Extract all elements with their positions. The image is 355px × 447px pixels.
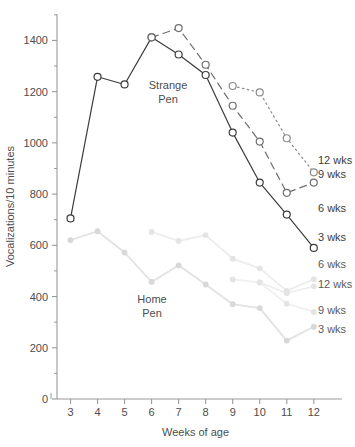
data-point-marker: [310, 169, 317, 176]
data-point-marker: [175, 51, 182, 58]
data-point-marker: [149, 229, 155, 235]
vocalizations-line-chart: 02004006008001000120014003456789101112 S…: [0, 0, 355, 447]
data-point-marker: [284, 338, 290, 344]
data-point-marker: [68, 237, 74, 243]
data-point-marker: [230, 301, 236, 307]
y-tick-label: 0: [42, 393, 48, 405]
legend-label: 3 wks: [318, 323, 347, 335]
x-tick-label: 9: [230, 406, 236, 418]
group-label-line2: Pen: [142, 307, 162, 319]
group-label-strange: StrangePen: [149, 79, 188, 105]
data-point-marker: [310, 179, 317, 186]
x-tick-label: 10: [254, 406, 266, 418]
y-tick-label: 1200: [24, 86, 48, 98]
data-point-marker: [283, 189, 290, 196]
data-point-marker: [176, 238, 182, 244]
legend-label: 6 wks: [318, 258, 347, 270]
data-point-marker: [283, 211, 290, 218]
data-point-marker: [256, 89, 263, 96]
group-label-line1: Home: [137, 293, 166, 305]
series-line: [233, 86, 314, 172]
series-line: [71, 231, 314, 340]
group-label-home: HomePen: [137, 293, 166, 319]
y-tick-label: 800: [30, 188, 48, 200]
inline-legend-layer: 12 wks9 wks6 wks3 wks6 wks12 wks9 wks3 w…: [318, 154, 353, 335]
series-line: [71, 37, 314, 248]
series-strange-pen-9-wks: [148, 25, 317, 197]
y-tick-label: 600: [30, 239, 48, 251]
x-tick-label: 7: [176, 406, 182, 418]
data-point-marker: [230, 276, 236, 282]
x-tick-label: 12: [308, 406, 320, 418]
data-point-marker: [229, 102, 236, 109]
x-tick-label: 6: [149, 406, 155, 418]
data-point-marker: [284, 301, 290, 307]
legend-label: 6 wks: [318, 202, 347, 214]
data-point-marker: [283, 135, 290, 142]
data-point-marker: [203, 282, 209, 288]
y-tick-label: 400: [30, 291, 48, 303]
data-point-marker: [284, 290, 290, 296]
data-point-marker: [149, 279, 155, 285]
y-tick-label: 1000: [24, 137, 48, 149]
data-point-marker: [230, 256, 236, 262]
series-layer: [67, 25, 317, 344]
data-point-marker: [257, 305, 263, 311]
data-point-marker: [229, 129, 236, 136]
x-tick-label: 3: [67, 406, 73, 418]
series-home-pen-9-wks: [230, 276, 317, 314]
data-point-marker: [203, 232, 209, 238]
data-point-marker: [311, 283, 317, 289]
series-strange-pen-3-wks: [67, 34, 317, 252]
chart-container: 02004006008001000120014003456789101112 S…: [0, 0, 355, 447]
data-point-marker: [202, 61, 209, 68]
legend-label: 12 wks: [318, 278, 353, 290]
data-point-marker: [311, 276, 317, 282]
data-point-marker: [176, 262, 182, 268]
x-tick-label: 11: [281, 406, 292, 418]
x-tick-label: 4: [94, 406, 100, 418]
legend-label: 9 wks: [318, 304, 347, 316]
data-point-marker: [256, 138, 263, 145]
data-point-marker: [95, 228, 101, 234]
y-tick-label: 200: [30, 342, 48, 354]
data-point-marker: [121, 81, 128, 88]
data-point-marker: [122, 250, 128, 256]
series-home-pen-6-wks: [149, 229, 317, 294]
data-point-marker: [202, 71, 209, 78]
group-label-line1: Strange: [149, 79, 188, 91]
data-point-marker: [175, 25, 182, 32]
series-home-pen-3-wks: [68, 228, 317, 343]
y-axis-title: Vocalizations/10 minutes: [4, 145, 16, 267]
data-point-marker: [310, 244, 317, 251]
data-point-marker: [67, 215, 74, 222]
group-annotations-layer: StrangePenHomePen: [137, 79, 187, 319]
data-point-marker: [229, 83, 236, 90]
x-tick-label: 5: [122, 406, 128, 418]
data-point-marker: [94, 73, 101, 80]
data-point-marker: [311, 309, 317, 315]
data-point-marker: [311, 324, 317, 330]
legend-label: 9 wks: [318, 168, 347, 180]
x-tick-label: 8: [203, 406, 209, 418]
series-strange-pen-12-wks: [229, 83, 317, 176]
data-point-marker: [257, 280, 263, 286]
y-tick-label: 1400: [24, 34, 48, 46]
data-point-marker: [148, 34, 155, 41]
legend-label: 3 wks: [318, 231, 347, 243]
x-axis-title: Weeks of age: [162, 426, 229, 438]
legend-label: 12 wks: [318, 154, 353, 166]
data-point-marker: [256, 179, 263, 186]
group-label-line2: Pen: [158, 93, 178, 105]
data-point-marker: [257, 265, 263, 271]
